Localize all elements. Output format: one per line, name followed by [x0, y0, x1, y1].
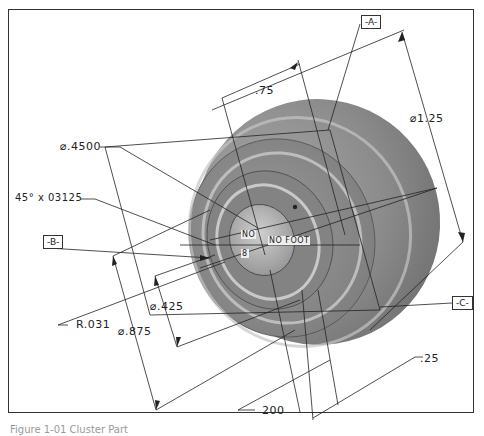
- dimension-length-75: .75: [255, 84, 274, 97]
- dimension-dia-125: ⌀1.25: [410, 112, 444, 125]
- center-label-no-foot: NO FOOT: [268, 236, 310, 245]
- center-label-8: 8: [241, 249, 249, 258]
- dimension-length-200: 200: [262, 404, 285, 417]
- datum-c: -C-: [452, 296, 473, 310]
- dimension-dia-4500: ⌀.4500: [60, 140, 101, 153]
- dimension-dia-875: ⌀.875: [118, 325, 152, 338]
- part-drawing: [0, 0, 484, 436]
- datum-b: -B-: [43, 235, 63, 249]
- center-label-no: NO: [241, 230, 256, 239]
- figure-caption: Figure 1-01 Cluster Part: [10, 424, 128, 435]
- dimension-dia-425: ⌀.425: [150, 300, 184, 313]
- dimension-length-25: .25: [420, 352, 439, 365]
- dimension-chamfer: 45° x 03125: [15, 192, 82, 203]
- dimension-radius: R.031: [76, 318, 110, 331]
- datum-a: -A-: [361, 15, 381, 29]
